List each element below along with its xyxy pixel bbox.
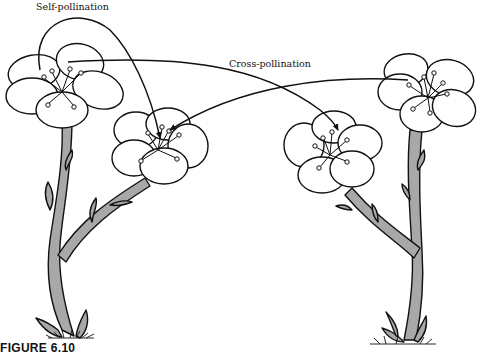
cross-pollination-arrow-right-to-left — [170, 79, 408, 130]
lower-left-flower — [112, 108, 208, 184]
figure-caption: FIGURE 6.10 — [0, 341, 75, 355]
diagram-drawing — [0, 0, 489, 355]
upper-left-flower — [5, 38, 128, 128]
self-pollination-label: Self-pollination — [36, 1, 109, 12]
right-grass — [370, 336, 436, 344]
cross-pollination-label: Cross-pollination — [229, 58, 311, 69]
upper-right-flower — [378, 50, 481, 132]
pollination-diagram: Self-pollination Cross-pollination FIGUR… — [0, 0, 489, 355]
